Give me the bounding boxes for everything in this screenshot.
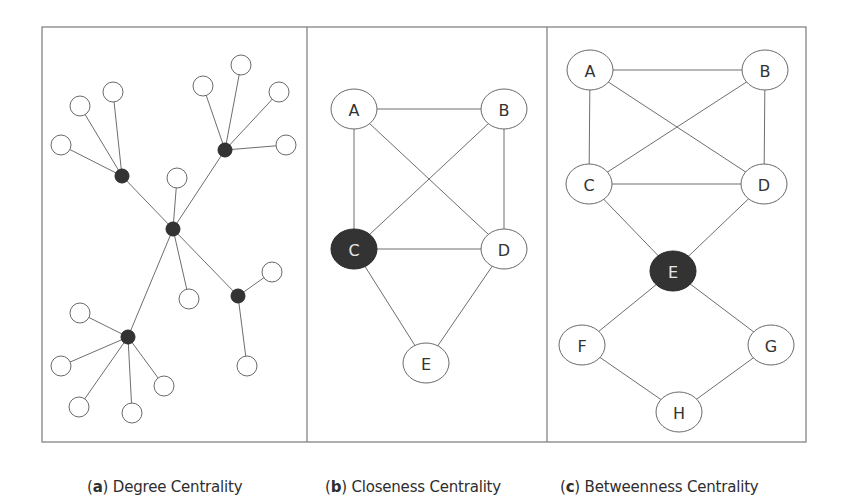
caption-closeness-centrality: (b) Closeness Centrality xyxy=(325,478,501,496)
node-l10 xyxy=(262,262,282,282)
node-label-H: H xyxy=(673,404,685,423)
central-node-hubTR xyxy=(218,143,232,157)
centrality-diagrams-canvas: ABCDE ABCDEFGH xyxy=(0,0,849,499)
caption-betweenness-centrality: (c) Betweenness Centrality xyxy=(560,478,759,496)
node-l16 xyxy=(154,376,174,396)
node-label-A: A xyxy=(349,101,360,120)
edges xyxy=(354,109,504,363)
node-label-A: A xyxy=(585,62,596,81)
node-l14 xyxy=(69,397,89,417)
central-node-hubTL xyxy=(115,169,129,183)
node-l11 xyxy=(237,356,257,376)
node-label-F: F xyxy=(577,337,586,356)
node-l8 xyxy=(167,168,187,188)
node-label-B: B xyxy=(499,101,510,120)
panel-closeness-centrality: ABCDE xyxy=(331,89,527,383)
node-label-C: C xyxy=(583,176,594,195)
caption-text: Degree Centrality xyxy=(113,478,243,496)
node-l13 xyxy=(51,356,71,376)
edge-hubTR-l5 xyxy=(225,65,241,150)
edge-center-hubBL xyxy=(128,229,173,337)
edge-hubR-l11 xyxy=(238,296,247,366)
node-label-B: B xyxy=(760,62,771,81)
node-l1 xyxy=(51,135,71,155)
node-l7 xyxy=(276,135,296,155)
nodes xyxy=(51,55,296,423)
nodes: ABCDE xyxy=(331,89,527,383)
node-l6 xyxy=(269,82,289,102)
edge-hubTR-l6 xyxy=(225,92,279,150)
central-node-hubR xyxy=(231,289,245,303)
node-l15 xyxy=(122,403,142,423)
node-label-D: D xyxy=(498,241,510,260)
edge-hubBL-l15 xyxy=(128,337,132,413)
caption-text: Closeness Centrality xyxy=(351,478,501,496)
caption-text: Betweenness Centrality xyxy=(585,478,759,496)
node-l12 xyxy=(70,303,90,323)
node-l9 xyxy=(179,289,199,309)
caption-degree-centrality: (a) Degree Centrality xyxy=(87,478,242,496)
panel-degree-centrality xyxy=(51,55,296,423)
node-l3 xyxy=(103,82,123,102)
caption-letter: b xyxy=(331,478,342,496)
edge-center-hubTL xyxy=(122,176,173,229)
node-l5 xyxy=(231,55,251,75)
central-node-hubBL xyxy=(121,330,135,344)
panel-betweenness-centrality: ABCDEFGH xyxy=(559,50,794,432)
edge-center-hubR xyxy=(173,229,238,296)
nodes: ABCDEFGH xyxy=(559,50,794,432)
edges xyxy=(582,70,771,412)
centrality-figure: ABCDE ABCDEFGH (a) Degree Centrality (b)… xyxy=(0,0,849,499)
edge-center-l9 xyxy=(173,229,189,299)
central-node-center xyxy=(166,222,180,236)
node-label-C: C xyxy=(348,241,359,260)
node-label-E: E xyxy=(668,263,678,282)
node-l4 xyxy=(193,76,213,96)
node-label-G: G xyxy=(765,337,777,356)
node-label-E: E xyxy=(421,355,431,374)
node-l2 xyxy=(70,96,90,116)
edge-center-hubTR xyxy=(173,150,225,229)
caption-letter: c xyxy=(566,478,575,496)
caption-letter: a xyxy=(93,478,103,496)
node-label-D: D xyxy=(758,176,770,195)
